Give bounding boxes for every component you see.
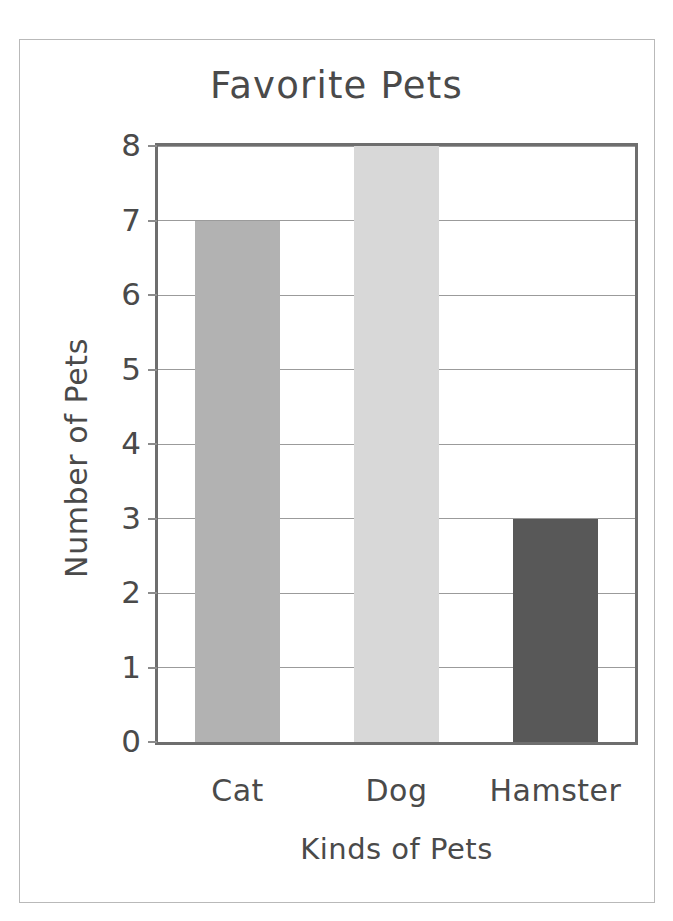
bar-hamster[interactable] — [513, 519, 598, 743]
x-axis-title: Kinds of Pets — [155, 830, 638, 868]
y-axis-tick-mark — [148, 220, 157, 222]
y-axis-tick-label-8: 8 — [101, 130, 141, 161]
y-axis-tick-label-7: 7 — [101, 205, 141, 236]
x-axis-tick-label-cat: Cat — [158, 772, 317, 810]
y-axis-tick-label-4: 4 — [101, 428, 141, 459]
y-axis-tick-mark — [148, 294, 157, 296]
x-axis-tick-label-dog: Dog — [317, 772, 476, 810]
x-axis-tick-label-hamster: Hamster — [476, 772, 635, 810]
y-axis-tick-label-6: 6 — [101, 279, 141, 310]
y-axis-tick-mark — [148, 145, 157, 147]
y-axis-tick-label-1: 1 — [101, 652, 141, 683]
y-axis-tick-label-5: 5 — [101, 354, 141, 385]
bars-layer — [158, 146, 635, 742]
y-axis-tick-label-3: 3 — [101, 503, 141, 534]
y-axis-tick-mark — [148, 369, 157, 371]
plot-area — [155, 143, 638, 745]
bar-dog[interactable] — [354, 146, 439, 742]
chart-title: Favorite Pets — [0, 62, 673, 110]
y-axis-tick-label-0: 0 — [101, 726, 141, 757]
chart-page: Favorite Pets 012345678 Number of Pets C… — [0, 0, 673, 921]
y-axis-tick-label-2: 2 — [101, 577, 141, 608]
bar-cat[interactable] — [195, 221, 280, 743]
y-axis-tick-mark — [148, 592, 157, 594]
y-axis-tick-mark — [148, 667, 157, 669]
y-axis-tick-mark — [148, 741, 157, 743]
y-axis-title: Number of Pets — [59, 308, 95, 608]
y-axis-tick-mark — [148, 443, 157, 445]
y-axis-tick-mark — [148, 518, 157, 520]
